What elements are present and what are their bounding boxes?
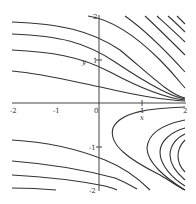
svg-text:-1: -1 <box>89 144 96 152</box>
svg-text:-1: -1 <box>53 107 60 115</box>
axes <box>12 15 186 191</box>
svg-text:0: 0 <box>94 107 98 115</box>
svg-text:2: 2 <box>93 13 97 21</box>
svg-text:-2: -2 <box>10 107 17 115</box>
svg-text:1: 1 <box>93 57 97 65</box>
x-axis-label: x <box>140 114 144 122</box>
svg-text:2: 2 <box>183 107 187 115</box>
svg-text:-2: -2 <box>89 187 96 195</box>
plot: -2 -1 0 1 2 2 1 -1 -2 x y <box>0 0 196 204</box>
